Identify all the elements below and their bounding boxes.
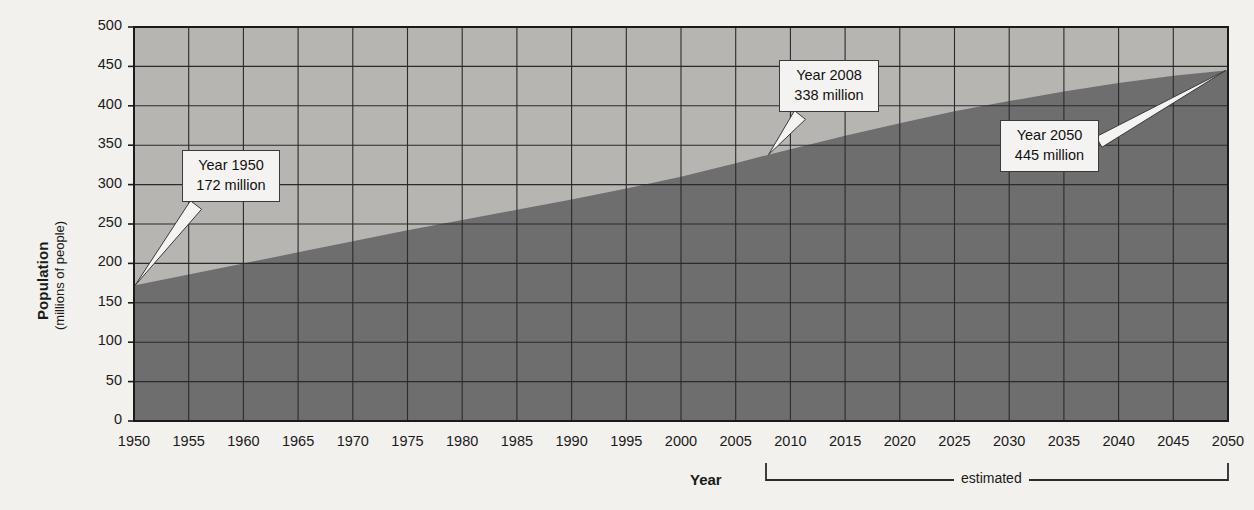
callout-1950-line1: Year 1950 bbox=[192, 156, 270, 176]
callout-2050: Year 2050 445 million bbox=[1000, 120, 1099, 172]
callout-2050-line2: 445 million bbox=[1010, 146, 1089, 166]
callout-1950-line2: 172 million bbox=[192, 176, 270, 196]
callout-2008: Year 2008 338 million bbox=[779, 60, 879, 112]
callout-1950: Year 1950 172 million bbox=[182, 150, 280, 202]
chart-figure: Population (millions of people) 50045040… bbox=[0, 0, 1254, 510]
plot-area bbox=[0, 0, 1254, 510]
callout-2008-line1: Year 2008 bbox=[789, 66, 869, 86]
callout-2008-line2: 338 million bbox=[789, 86, 869, 106]
gridlines bbox=[134, 27, 1228, 421]
x-axis-title: Year bbox=[690, 471, 722, 488]
callout-2050-line1: Year 2050 bbox=[1010, 126, 1089, 146]
estimated-label: estimated bbox=[954, 470, 1029, 486]
